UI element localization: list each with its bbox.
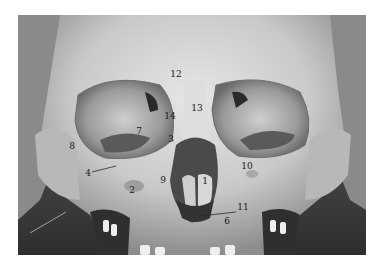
label-2: 2 — [129, 186, 135, 195]
label-10: 10 — [241, 162, 252, 171]
label-8: 8 — [69, 142, 75, 151]
label-6: 6 — [224, 217, 230, 226]
skull-illustration — [18, 15, 366, 255]
label-3: 3 — [168, 135, 174, 144]
label-14: 14 — [164, 112, 175, 121]
label-9: 9 — [160, 176, 166, 185]
label-11: 11 — [237, 203, 248, 212]
label-1: 1 — [202, 177, 208, 186]
label-13: 13 — [191, 104, 202, 113]
label-4: 4 — [85, 169, 91, 178]
label-7: 7 — [136, 127, 142, 136]
label-12: 12 — [170, 70, 181, 79]
skull-ct-image — [18, 15, 366, 255]
